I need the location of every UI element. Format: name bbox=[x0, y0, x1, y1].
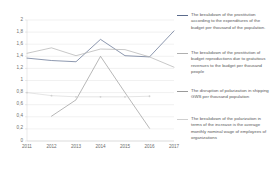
series-line-1 bbox=[27, 48, 174, 67]
data-series-group bbox=[27, 31, 174, 128]
y-tick-label-3: 0,6 bbox=[9, 102, 23, 107]
plot-area: 00,20,40,60,811,21,41,61,82 201120122013… bbox=[0, 0, 176, 170]
legend-item-1[interactable]: The breakdown of the prostitution of bud… bbox=[176, 50, 273, 75]
series-line-2 bbox=[52, 56, 150, 128]
legend-item-3[interactable]: The breakdown of the polarization in ter… bbox=[176, 116, 273, 141]
line-chart-figure: 00,20,40,60,811,21,41,61,82 201120122013… bbox=[0, 0, 273, 170]
series-marker-3-4 bbox=[124, 96, 126, 98]
y-tick-label-8: 1,6 bbox=[9, 42, 23, 47]
series-marker-3-3 bbox=[100, 96, 102, 98]
legend-item-2[interactable]: The disruption of polarization in shippi… bbox=[176, 88, 273, 101]
chart-legend: The breakdown of the prostitution accord… bbox=[176, 0, 273, 170]
x-tick-label-2: 2013 bbox=[66, 145, 86, 150]
y-tick-label-7: 1,4 bbox=[9, 54, 23, 59]
legend-label-3: The breakdown of the polarization in ter… bbox=[191, 116, 271, 141]
y-tick-label-9: 1,8 bbox=[9, 30, 23, 35]
x-tick-label-5: 2016 bbox=[140, 145, 160, 150]
series-marker-3-1 bbox=[51, 95, 53, 97]
y-tick-label-0: 0 bbox=[9, 139, 23, 144]
legend-item-0[interactable]: The breakdown of the prostitution accord… bbox=[176, 12, 273, 31]
legend-swatch-icon-0 bbox=[177, 15, 188, 16]
legend-swatch-icon-1 bbox=[177, 53, 188, 54]
series-marker-3-5 bbox=[149, 95, 151, 97]
y-tick-label-2: 0,4 bbox=[9, 114, 23, 119]
x-tick-label-4: 2015 bbox=[115, 145, 135, 150]
series-marker-3-0 bbox=[26, 92, 28, 94]
x-tick-label-1: 2012 bbox=[42, 145, 62, 150]
series-line-3 bbox=[27, 93, 150, 97]
legend-label-0: The breakdown of the prostitution accord… bbox=[191, 12, 271, 31]
y-tick-label-1: 0,2 bbox=[9, 126, 23, 131]
series-marker-3-2 bbox=[75, 96, 77, 98]
y-tick-label-6: 1,2 bbox=[9, 66, 23, 71]
x-tick-label-3: 2014 bbox=[91, 145, 111, 150]
y-tick-label-4: 0,8 bbox=[9, 90, 23, 95]
series-line-0 bbox=[27, 31, 174, 62]
legend-swatch-icon-3 bbox=[177, 119, 188, 120]
legend-label-1: The breakdown of the prostitution of bud… bbox=[191, 50, 271, 75]
legend-swatch-icon-2 bbox=[177, 91, 188, 92]
x-tick-label-0: 2011 bbox=[17, 145, 37, 150]
gridlines bbox=[27, 20, 174, 141]
y-tick-label-5: 1 bbox=[9, 78, 23, 83]
legend-label-2: The disruption of polarization in shippi… bbox=[191, 88, 271, 101]
y-tick-label-10: 2 bbox=[9, 18, 23, 23]
